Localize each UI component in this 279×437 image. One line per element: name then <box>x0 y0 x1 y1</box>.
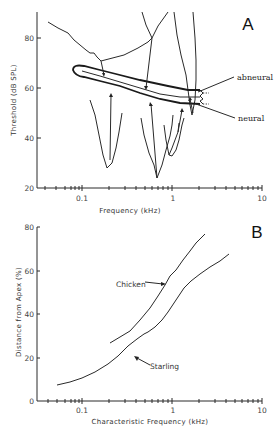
label-chicken: Chicken <box>116 280 146 289</box>
xtick-b-1: 1 <box>171 406 176 415</box>
panel-label-b: B <box>251 223 262 242</box>
ytick-b-40: 40 <box>24 310 34 319</box>
ytick-a-20: 20 <box>24 184 34 193</box>
arrows-a <box>101 38 193 178</box>
label-neural: neural <box>238 114 265 123</box>
tuning-curve-mid <box>141 115 173 178</box>
x-axis-label-b: Characteristic Frequency (kHz) <box>92 418 209 426</box>
figure: 80 60 40 20 Threshold (dB SPL) <box>0 0 279 437</box>
panel-b: 80 60 40 20 0 Distance from Apex (%) <box>15 223 267 426</box>
ytick-a-40: 40 <box>24 134 34 143</box>
xtick-a-10: 10 <box>257 194 267 203</box>
xtick-b-10: 10 <box>257 406 267 415</box>
series-starling <box>57 254 229 385</box>
x-axis-label-a: Frequency (kHz) <box>99 207 160 215</box>
ytick-b-0: 0 <box>29 397 34 406</box>
tuning-curve-high <box>164 118 184 156</box>
ytick-a-80: 80 <box>24 34 34 43</box>
panel-a: 80 60 40 20 Threshold (dB SPL) <box>10 12 274 215</box>
xtick-a-0.1: 0.1 <box>76 194 88 203</box>
xtick-a-1: 1 <box>171 194 176 203</box>
ytick-b-80: 80 <box>24 223 34 232</box>
panel-label-a: A <box>242 15 254 34</box>
xtick-b-0.1: 0.1 <box>76 406 88 415</box>
ytick-b-20: 20 <box>24 354 34 363</box>
y-axis-label-a: Threshold (dB SPL) <box>10 64 18 137</box>
label-starling: Starling <box>150 362 179 371</box>
band-outline <box>73 66 200 105</box>
y-axis-label-b: Distance from Apex (%) <box>15 267 23 357</box>
label-abneural: abneural <box>237 73 274 82</box>
tuning-curve-1 <box>48 12 152 61</box>
ytick-b-60: 60 <box>24 267 34 276</box>
ytick-a-60: 60 <box>24 84 34 93</box>
tuning-curve-low <box>90 100 122 168</box>
